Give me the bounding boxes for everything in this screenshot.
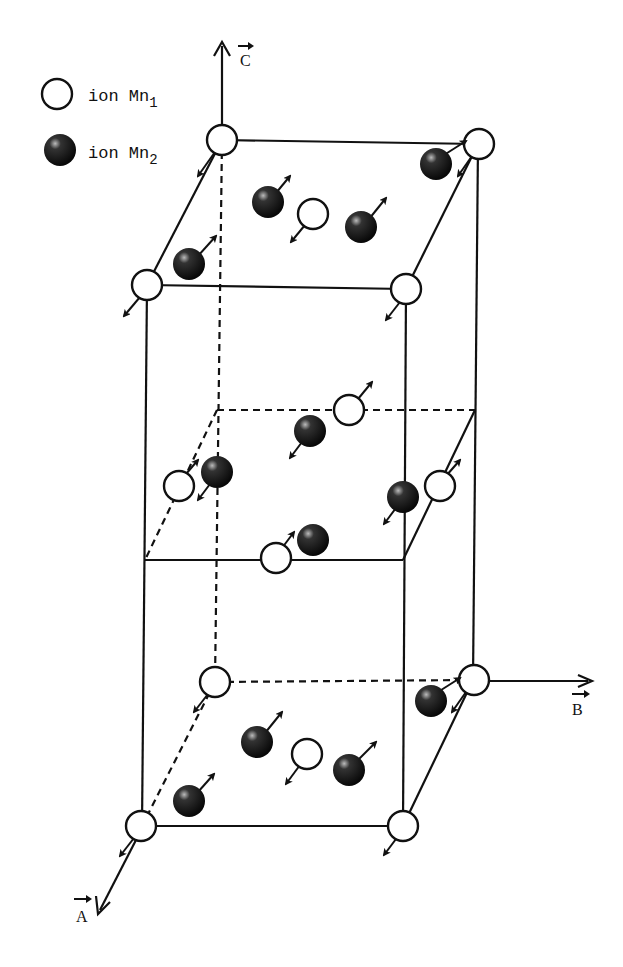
mn2-ion	[201, 456, 233, 488]
b-axis: B	[488, 675, 592, 718]
mn1-ion	[126, 811, 156, 841]
mn2-ion	[387, 481, 419, 513]
mn2-ion	[415, 685, 447, 717]
mn2-ion	[173, 785, 205, 817]
a-axis: A	[74, 840, 136, 925]
legend: ion Mn1 ion Mn2	[42, 79, 158, 168]
mn2-ion	[420, 148, 452, 180]
mn2-ion	[241, 726, 273, 758]
crystal-structure-diagram: ion Mn1 ion Mn2 C B A	[0, 0, 623, 967]
mn1-ion	[334, 395, 364, 425]
mn1-ion	[388, 811, 418, 841]
b-axis-label: B	[572, 701, 583, 718]
a-axis-label: A	[76, 908, 88, 925]
legend-item-mn1: ion Mn1	[42, 79, 158, 111]
mn2-symbol-icon	[44, 134, 76, 166]
mn1-symbol-icon	[42, 79, 72, 109]
mn1-ion	[425, 471, 455, 501]
mn1-ion	[200, 667, 230, 697]
mn1-ion	[261, 543, 291, 573]
mn2-ion	[297, 524, 329, 556]
mn1-ions	[120, 125, 494, 856]
legend-label-mn1: ion Mn1	[88, 87, 158, 111]
mn2-ion	[252, 186, 284, 218]
mn1-ion	[132, 270, 162, 300]
mn2-ion	[345, 211, 377, 243]
mn2-ions	[173, 141, 466, 817]
legend-item-mn2: ion Mn2	[44, 134, 158, 168]
c-axis-label: C	[240, 52, 251, 69]
mn1-ion	[464, 129, 494, 159]
mn1-ion	[459, 665, 489, 695]
mn1-ion	[164, 471, 194, 501]
c-axis: C	[214, 42, 254, 125]
mn1-ion	[298, 199, 328, 229]
mn2-ion	[333, 754, 365, 786]
mn1-ion	[391, 274, 421, 304]
mn1-ion	[292, 739, 322, 769]
mn2-ion	[294, 415, 326, 447]
mn2-ion	[173, 248, 205, 280]
legend-label-mn2: ion Mn2	[88, 144, 158, 168]
mn1-ion	[207, 125, 237, 155]
